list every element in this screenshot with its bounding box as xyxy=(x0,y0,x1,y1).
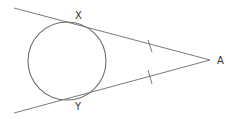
tangent-line-ax xyxy=(14,8,210,60)
circle xyxy=(28,22,106,100)
label-y: Y xyxy=(74,101,82,112)
equal-tick-ax xyxy=(148,40,152,52)
tangent-diagram: X Y A xyxy=(0,0,237,119)
tangent-line-ay xyxy=(14,60,210,113)
label-a: A xyxy=(217,55,224,66)
label-x: X xyxy=(75,10,82,21)
